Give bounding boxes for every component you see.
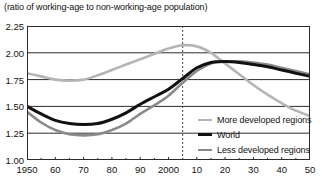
chart-legend: More developed regionsWorldLess develope… bbox=[198, 112, 318, 157]
legend-label: More developed regions bbox=[217, 115, 311, 125]
x-tick-label: 10 bbox=[192, 164, 203, 175]
chart-title: (ratio of working-age to non-working-age… bbox=[4, 2, 207, 12]
x-tick-label: 50 bbox=[305, 164, 316, 175]
y-axis-tick-labels: 1.001.251.501.752.002.25 bbox=[0, 0, 24, 183]
y-tick-label: 2.00 bbox=[6, 47, 25, 58]
legend-item: More developed regions bbox=[198, 112, 318, 127]
legend-label: Less developed regions bbox=[217, 145, 310, 155]
x-tick-label: 90 bbox=[135, 164, 146, 175]
legend-label: World bbox=[217, 130, 240, 140]
y-tick-label: 2.25 bbox=[6, 21, 25, 32]
x-tick-label: 70 bbox=[78, 164, 89, 175]
legend-color-swatch bbox=[198, 149, 212, 151]
x-tick-label: 80 bbox=[107, 164, 118, 175]
legend-color-swatch bbox=[198, 133, 212, 136]
x-tick-label: 1950 bbox=[16, 164, 37, 175]
legend-item: Less developed regions bbox=[198, 142, 318, 157]
y-tick-label: 1.25 bbox=[6, 128, 25, 139]
y-tick-label: 1.50 bbox=[6, 101, 25, 112]
x-tick-label: 60 bbox=[50, 164, 61, 175]
x-tick-label: 40 bbox=[276, 164, 287, 175]
x-axis-tick-labels: 19506070809020001020304050 bbox=[0, 164, 322, 180]
legend-color-swatch bbox=[198, 119, 212, 121]
x-tick-label: 2000 bbox=[158, 164, 179, 175]
y-tick-label: 1.75 bbox=[6, 74, 25, 85]
legend-item: World bbox=[198, 127, 318, 142]
x-tick-label: 20 bbox=[220, 164, 231, 175]
x-tick-label: 30 bbox=[248, 164, 259, 175]
chart-container: (ratio of working-age to non-working-age… bbox=[0, 0, 322, 183]
